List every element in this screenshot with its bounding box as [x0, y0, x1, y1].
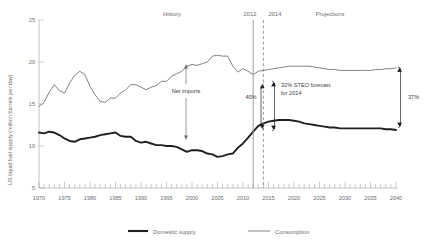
history-label: History: [163, 11, 181, 17]
x-tick-label: 1980: [84, 195, 96, 201]
steo-forecast-line2: for 2014: [281, 90, 302, 96]
chart-legend: Domestic supply Consumption: [128, 229, 309, 235]
x-tick-label: 1995: [160, 195, 172, 201]
gap-2012-annotation: 40%: [245, 84, 264, 129]
chart-container: US liquid fuel supply (million barrels p…: [0, 0, 432, 244]
steo-forecast-line1: 32% STEO forecast: [281, 82, 331, 88]
x-tick-label: 2030: [339, 195, 351, 201]
x-tick-label: 1985: [109, 195, 121, 201]
y-tick-label: 15: [29, 101, 35, 107]
y-axis-title: US liquid fuel supply (million barrels p…: [7, 74, 13, 185]
y-tick-label: 5: [32, 185, 35, 191]
year-marker-group: [253, 20, 263, 188]
x-tick-label: 2005: [211, 195, 223, 201]
series-domestic-supply: [39, 120, 396, 157]
gap-2040-percent-label: 37%: [408, 94, 419, 100]
x-tick-label: 1970: [33, 195, 45, 201]
x-tick-label: 2000: [186, 195, 198, 201]
x-tick-label: 2040: [390, 195, 402, 201]
y-tick-label: 25: [29, 17, 35, 23]
x-tick-label: 2015: [262, 195, 274, 201]
plot-series-group: [39, 55, 396, 157]
y-tick-label: 10: [29, 143, 35, 149]
legend-label-domestic-supply: Domestic supply: [153, 229, 196, 235]
net-imports-label: Net imports: [172, 88, 201, 94]
x-tick-label: 2025: [313, 195, 325, 201]
x-tick-label: 2010: [237, 195, 249, 201]
series-consumption: [39, 55, 396, 106]
x-tick-label: 2020: [288, 195, 300, 201]
x-tick-label: 1990: [135, 195, 147, 201]
gap-2014-annotation: 32% STEO forecast for 2014: [271, 81, 331, 131]
legend-label-consumption: Consumption: [275, 229, 309, 235]
net-imports-annotation: Net imports: [172, 64, 201, 140]
gap-2012-percent-label: 40%: [245, 94, 256, 100]
projections-label: Projections: [316, 11, 345, 17]
x-axis: 1970197519801985199019952000200520102015…: [33, 182, 402, 201]
gap-2040-annotation: 37%: [397, 67, 419, 129]
year-2014-label: 2014: [269, 11, 283, 17]
year-2012-label: 2012: [244, 11, 257, 17]
x-tick-label: 2035: [364, 195, 376, 201]
y-tick-label: 20: [29, 59, 35, 65]
x-tick-label: 1975: [58, 195, 70, 201]
liquid-fuel-supply-chart: US liquid fuel supply (million barrels p…: [0, 0, 432, 244]
